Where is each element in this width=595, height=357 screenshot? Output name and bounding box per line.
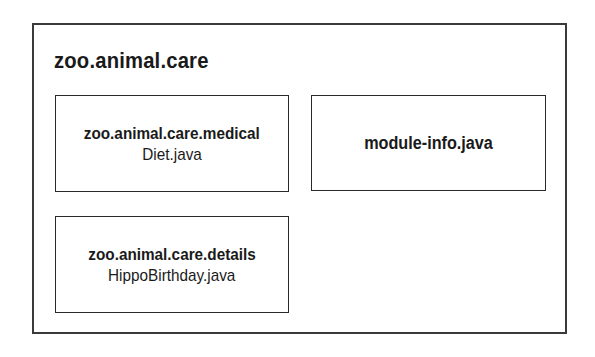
- package-name: zoo.animal.care.medical: [84, 123, 260, 144]
- package-box-medical: zoo.animal.care.medical Diet.java: [55, 95, 289, 192]
- module-title: zoo.animal.care: [54, 48, 209, 74]
- package-box-details: zoo.animal.care.details HippoBirthday.ja…: [55, 216, 289, 313]
- package-name: zoo.animal.care.details: [88, 244, 256, 265]
- file-name: HippoBirthday.java: [108, 265, 235, 286]
- file-name: Diet.java: [142, 144, 202, 165]
- module-descriptor-file: module-info.java: [364, 133, 493, 154]
- module-info-box: module-info.java: [311, 95, 546, 191]
